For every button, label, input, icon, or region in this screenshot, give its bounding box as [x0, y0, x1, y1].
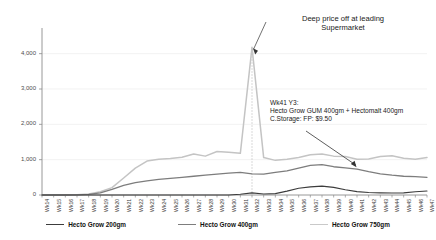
deep-price-annotation: Deep price off at leadingSupermarket — [268, 14, 418, 33]
legend-label: Hecto Grow 750gm — [332, 221, 390, 228]
x-tick-label: Wk28 — [208, 199, 214, 212]
legend-item[interactable]: Hecto Grow 200gm — [46, 221, 126, 228]
x-tick-label: Wk21 — [126, 199, 132, 212]
x-tick-label: Wk41 — [359, 199, 365, 212]
x-tick-label: Wk20 — [114, 199, 120, 212]
x-tick-label: Wk33 — [266, 199, 272, 212]
annotation-line: C.Storage: FP: $9.50 — [270, 115, 403, 123]
x-tick-label: Wk36 — [301, 199, 307, 212]
y-tick-label: 0 — [2, 191, 36, 197]
x-tick-label: Wk35 — [289, 199, 295, 212]
legend-color-swatch — [46, 224, 64, 225]
y-tick-label: 4,000 — [2, 50, 36, 56]
legend-item[interactable]: Hecto Grow 750gm — [310, 221, 390, 228]
legend-label: Hecto Grow 400gm — [200, 221, 258, 228]
x-tick-label: Wk40 — [348, 199, 354, 212]
x-tick-label: Wk16 — [68, 199, 74, 212]
x-tick-label: Wk34 — [278, 199, 284, 212]
x-tick-label: Wk31 — [243, 199, 249, 212]
x-tick-label: Wk44 — [394, 199, 400, 212]
x-tick-label: Wk29 — [219, 199, 225, 212]
x-tick-label: Wk46 — [418, 199, 424, 212]
wk41-annotation: Wk41 Y3:Hecto Grow GUM 400gm + Hectomalt… — [270, 99, 403, 124]
x-tick-label: Wk45 — [406, 199, 412, 212]
x-tick-label: Wk24 — [161, 199, 167, 212]
x-tick-label: Wk38 — [324, 199, 330, 212]
annotation-line: Supermarket — [268, 23, 418, 32]
x-tick-label: Wk30 — [231, 199, 237, 212]
x-tick-label: Wk15 — [56, 199, 62, 212]
x-tick-label: Wk18 — [91, 199, 97, 212]
legend-color-swatch — [310, 224, 328, 225]
x-tick-label: Wk42 — [371, 199, 377, 212]
legend-label: Hecto Grow 200gm — [68, 221, 126, 228]
line-chart: 01,0002,0003,0004,000 Wk14Wk15Wk16Wk17Wk… — [0, 0, 436, 240]
x-tick-label: Wk23 — [149, 199, 155, 212]
x-tick-label: Wk17 — [79, 199, 85, 212]
x-tick-label: Wk47 — [429, 199, 435, 212]
x-tick-label: Wk14 — [44, 199, 50, 212]
annotation-line: Hecto Grow GUM 400gm + Hectomalt 400gm — [270, 107, 403, 115]
x-tick-label: Wk25 — [173, 199, 179, 212]
x-tick-label: Wk26 — [184, 199, 190, 212]
x-tick-label: Wk39 — [336, 199, 342, 212]
annotation-line: Deep price off at leading — [268, 14, 418, 23]
x-tick-label: Wk32 — [254, 199, 260, 212]
y-tick-label: 3,000 — [2, 85, 36, 91]
x-tick-label: Wk37 — [313, 199, 319, 212]
x-tick-label: Wk43 — [383, 199, 389, 212]
x-tick-label: Wk19 — [103, 199, 109, 212]
annotation-line: Wk41 Y3: — [270, 99, 403, 107]
x-tick-label: Wk27 — [196, 199, 202, 212]
legend-item[interactable]: Hecto Grow 400gm — [178, 221, 258, 228]
legend-color-swatch — [178, 224, 196, 225]
y-tick-label: 1,000 — [2, 156, 36, 162]
y-tick-label: 2,000 — [2, 120, 36, 126]
chart-legend: Hecto Grow 200gmHecto Grow 400gmHecto Gr… — [0, 216, 436, 232]
x-tick-label: Wk22 — [138, 199, 144, 212]
